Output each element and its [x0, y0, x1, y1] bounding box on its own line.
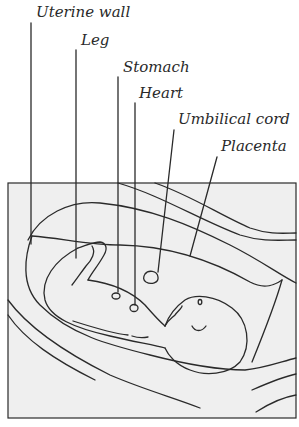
label-placenta: Placenta	[221, 139, 287, 154]
illustration-frame	[8, 183, 296, 418]
label-umbilical-cord: Umbilical cord	[178, 112, 290, 127]
label-heart: Heart	[139, 86, 183, 101]
label-uterine-wall: Uterine wall	[36, 5, 130, 20]
label-stomach: Stomach	[123, 60, 190, 75]
label-leg: Leg	[81, 33, 109, 48]
